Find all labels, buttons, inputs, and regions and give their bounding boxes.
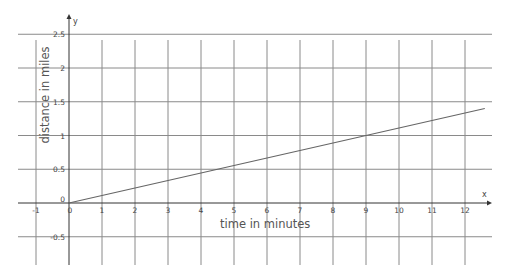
y-axis-name: y <box>73 17 78 26</box>
x-axis-arrow-icon <box>487 201 492 206</box>
chart-plot-area: xy -10123456789101112-0.500.511.522.5 <box>0 0 505 273</box>
data-series <box>69 109 485 204</box>
y-tick-label: 2 <box>60 64 65 73</box>
x-tick-label: 0 <box>68 206 73 215</box>
x-tick-label: 8 <box>331 206 336 215</box>
x-tick-label: 9 <box>364 206 369 215</box>
x-tick-label: 7 <box>298 206 303 215</box>
series-line <box>69 109 485 204</box>
y-axis-arrow-icon <box>67 14 72 19</box>
x-tick-label: 12 <box>460 206 470 215</box>
x-tick-label: 5 <box>232 206 237 215</box>
x-tick-label: 4 <box>199 206 204 215</box>
x-tick-label: 11 <box>427 206 437 215</box>
x-axis-name: x <box>482 190 487 199</box>
y-tick-label: 0.5 <box>53 165 65 174</box>
x-tick-label: 1 <box>100 206 105 215</box>
x-tick-label: 6 <box>265 206 270 215</box>
y-tick-label: 2.5 <box>53 30 65 39</box>
y-tick-label: 1.5 <box>53 98 65 107</box>
x-tick-label: 2 <box>133 206 138 215</box>
x-axis-title: time in minutes <box>220 217 310 231</box>
x-tick-label: -1 <box>32 206 40 215</box>
y-tick-label: -0.5 <box>50 233 65 242</box>
y-tick-label: 0 <box>60 195 65 204</box>
y-axis-title: distance in miles <box>38 46 52 143</box>
x-tick-label: 10 <box>394 206 404 215</box>
x-tick-label: 3 <box>166 206 171 215</box>
y-tick-label: 1 <box>60 132 65 141</box>
